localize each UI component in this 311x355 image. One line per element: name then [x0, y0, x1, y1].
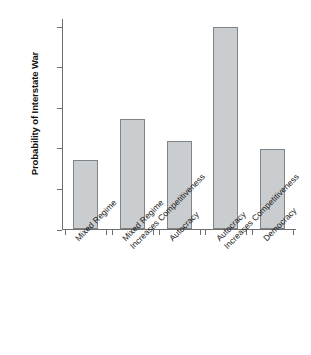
- bar: [120, 119, 145, 229]
- y-axis-tick: [57, 27, 62, 28]
- y-axis-line: [62, 19, 63, 230]
- x-axis-tick: [252, 230, 253, 235]
- y-axis-tick: [57, 108, 62, 109]
- x-axis-tick: [65, 230, 66, 235]
- x-axis-tick: [112, 230, 113, 235]
- y-axis-tick: [57, 67, 62, 68]
- y-axis-tick: [57, 148, 62, 149]
- y-axis-tick: [57, 230, 62, 231]
- x-axis-tick: [200, 230, 201, 235]
- bar-chart-figure: Probability of Interstate War 0.10.20.30…: [0, 0, 311, 355]
- y-axis-tick: [57, 189, 62, 190]
- x-axis-tick: [293, 230, 294, 235]
- x-axis-tick: [106, 230, 107, 235]
- bar: [213, 27, 238, 229]
- y-axis-title: Probability of Interstate War: [29, 24, 40, 204]
- x-axis-tick: [205, 230, 206, 235]
- x-axis-tick: [159, 230, 160, 235]
